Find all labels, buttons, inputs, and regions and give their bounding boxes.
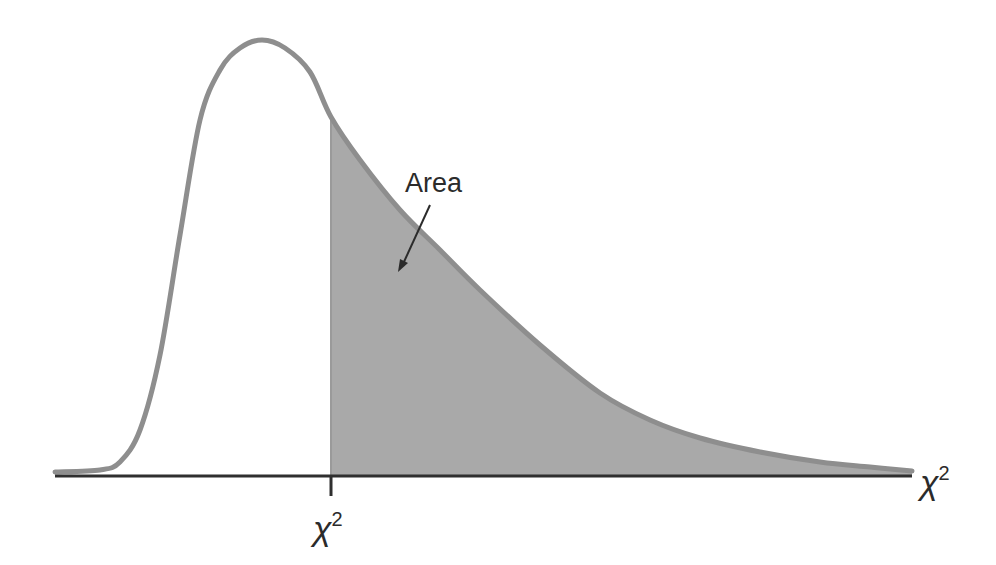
area-label: Area	[405, 168, 463, 198]
chi-square-chart: Area χ2 χ2	[0, 0, 996, 565]
critical-value-label: χ2	[310, 508, 343, 547]
x-axis-label: χ2	[917, 462, 950, 501]
